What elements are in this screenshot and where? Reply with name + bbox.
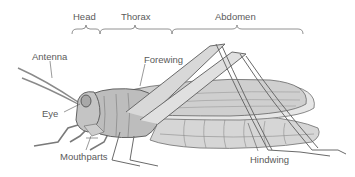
label-eye: Eye xyxy=(42,109,58,119)
antenna-leader xyxy=(50,61,52,78)
compound-eye xyxy=(81,95,91,107)
antennae xyxy=(18,68,78,104)
forewing-leader xyxy=(140,64,145,86)
region-braces xyxy=(72,25,303,34)
label-abdomen: Abdomen xyxy=(215,12,256,22)
thorax-brace xyxy=(100,25,172,34)
grasshopper-illustration xyxy=(0,0,355,177)
label-thorax: Thorax xyxy=(121,12,151,22)
label-antenna: Antenna xyxy=(32,52,67,62)
label-head: Head xyxy=(73,12,96,22)
label-hindwing: Hindwing xyxy=(250,155,289,165)
head-brace xyxy=(72,25,100,34)
label-mouthparts: Mouthparts xyxy=(60,152,108,162)
label-forewing: Forewing xyxy=(144,55,183,65)
abdomen-brace xyxy=(172,25,303,34)
